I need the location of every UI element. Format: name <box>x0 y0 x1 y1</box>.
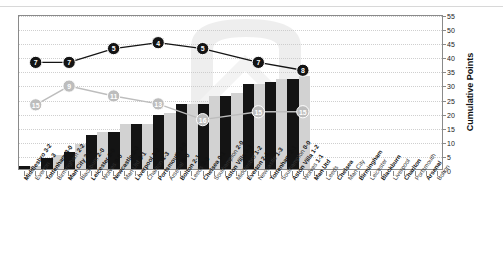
y-tick-mark <box>443 157 446 158</box>
y-tick-label: 25 <box>447 97 455 104</box>
y-tick-label: 10 <box>447 139 455 146</box>
gridline <box>19 72 442 73</box>
svg-text:13: 13 <box>154 101 162 108</box>
y-tick-label: 45 <box>447 41 455 48</box>
y-tick-label: 5 <box>447 153 451 160</box>
y-tick-mark <box>443 143 446 144</box>
y-tick-label: 55 <box>447 13 455 20</box>
svg-text:7: 7 <box>256 59 260 66</box>
y-tick-mark <box>443 44 446 45</box>
svg-text:4: 4 <box>156 40 160 47</box>
gridline <box>19 30 442 31</box>
y-tick-mark <box>443 115 446 116</box>
y-tick-mark <box>443 58 446 59</box>
y-tick-mark <box>443 30 446 31</box>
gridline <box>19 16 442 17</box>
svg-text:15: 15 <box>32 102 40 109</box>
y-tick-mark <box>443 86 446 87</box>
line-dark <box>36 43 303 71</box>
y-tick-mark <box>443 101 446 102</box>
y-tick-label: 30 <box>447 83 455 90</box>
y-tick-label: 40 <box>447 55 455 62</box>
y-tick-mark <box>443 16 446 17</box>
x-axis-labels: Middlesbro 3-2Everton 1-3Tottenham 3-0Bi… <box>0 176 503 255</box>
svg-text:7: 7 <box>34 59 38 66</box>
y-tick-mark <box>443 72 446 73</box>
y-tick-label: 15 <box>447 125 455 132</box>
gridline <box>19 86 442 87</box>
y-tick-label: 50 <box>447 27 455 34</box>
svg-text:5: 5 <box>201 45 205 52</box>
top-divider <box>0 0 503 7</box>
svg-text:5: 5 <box>112 45 116 52</box>
gridline <box>19 44 442 45</box>
data-point-marker: 4 <box>152 37 164 49</box>
gridline <box>19 58 442 59</box>
y-axis-title: Cumulative Points <box>462 14 478 170</box>
chart-container: 77545781591113161515 0510152025303540455… <box>0 0 503 255</box>
svg-text:11: 11 <box>110 93 117 100</box>
y-tick-mark <box>443 129 446 130</box>
y-tick-label: 35 <box>447 69 455 76</box>
svg-text:7: 7 <box>67 59 71 66</box>
y-tick-label: 20 <box>447 111 455 118</box>
data-point-marker: 8 <box>297 64 309 76</box>
y-axis-title-text: Cumulative Points <box>465 53 475 132</box>
